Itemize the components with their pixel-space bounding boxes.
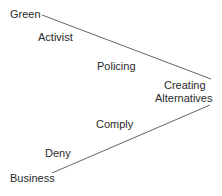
label-comply: Comply: [96, 118, 133, 131]
label-deny: Deny: [45, 147, 71, 160]
label-policing: Policing: [97, 60, 136, 73]
label-business: Business: [10, 172, 55, 185]
label-creating: Creating: [164, 79, 206, 92]
label-alternatives: Alternatives: [155, 92, 212, 105]
label-green: Green: [10, 8, 41, 21]
label-activist: Activist: [38, 31, 73, 44]
diagram-canvas: Green Activist Policing Creating Alterna…: [0, 0, 222, 196]
business-to-alternatives-line: [52, 105, 210, 173]
